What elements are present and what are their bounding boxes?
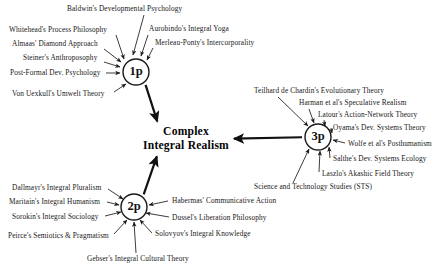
spoke-line-3p-3 — [331, 128, 332, 133]
item-label-1p-0: Baldwin's Developmental Psychology — [67, 4, 182, 13]
item-label-2p-4: Dussel's Liberation Philosophy — [172, 213, 267, 222]
item-labels-layer: Baldwin's Developmental PsychologyWhiteh… — [8, 4, 432, 263]
item-label-3p-2: Latour's Action-Network Theory — [318, 110, 417, 119]
item-label-2p-7: Gebser's Integral Cultural Theory — [87, 254, 189, 263]
item-label-3p-0: Teilhard de Chardin's Evolutionary Theor… — [254, 86, 384, 95]
spoke-line-3p-7 — [293, 149, 309, 183]
spoke-line-1p-5 — [104, 62, 120, 67]
spoke-line-2p-7 — [134, 222, 136, 253]
spoke-line-1p-0 — [133, 15, 144, 55]
spoke-line-1p-7 — [114, 84, 126, 92]
spoke-line-1p-3 — [104, 49, 121, 62]
arrow-1p-to-center — [146, 85, 158, 122]
spoke-line-2p-3 — [105, 212, 121, 216]
center-title-line1: Complex — [163, 125, 209, 138]
item-label-3p-4: Wolfe et al's Posthumanism — [348, 139, 432, 148]
item-label-2p-5: Peirce's Semiotics & Pragmatism — [8, 231, 109, 240]
item-label-1p-1: Whitehead's Process Philosophy — [9, 25, 107, 34]
arrow-2p-to-center — [144, 156, 157, 194]
node-label-2p: 2p — [127, 199, 140, 213]
item-label-2p-6: Solovyov's Integral Knowledge — [155, 229, 251, 238]
spoke-line-3p-5 — [329, 147, 330, 158]
center-title-line2: Integral Realism — [143, 139, 229, 152]
spoke-line-3p-1 — [309, 109, 314, 123]
spoke-line-1p-1 — [116, 35, 124, 59]
item-label-1p-2: Aurobindo's Integral Yoga — [149, 24, 230, 33]
diagram-canvas-container: 1p2p3p Baldwin's Developmental Psycholog… — [0, 0, 434, 271]
item-label-1p-7: Von Uexkull's Umwelt Theory — [12, 89, 105, 98]
arrow-3p-to-center — [234, 137, 302, 138]
item-label-3p-7: Science and Technology Studies (STS) — [254, 182, 372, 191]
complex-integral-realism-diagram: 1p2p3p Baldwin's Developmental Psycholog… — [0, 0, 434, 271]
spoke-line-2p-6 — [140, 220, 152, 233]
spoke-line-2p-5 — [114, 220, 127, 234]
item-label-2p-3: Sorokin's Integral Sociology — [12, 212, 99, 221]
item-label-1p-4: Merleau-Ponty's Intercorporality — [155, 38, 255, 47]
spoke-line-2p-0 — [108, 189, 123, 199]
spoke-line-1p-2 — [141, 35, 148, 56]
spoke-line-3p-6 — [319, 151, 320, 172]
item-label-1p-3: Almaas' Diamond Approach — [12, 39, 98, 48]
item-label-2p-0: Dallmayr's Integral Pluralism — [12, 183, 102, 192]
item-label-3p-5: Salthe's Dev. Systems Ecology — [333, 154, 427, 163]
item-label-1p-5: Steiner's Anthroposophy — [23, 53, 98, 62]
spoke-line-2p-4 — [146, 213, 169, 217]
node-label-3p: 3p — [311, 129, 324, 143]
spoke-line-3p-4 — [333, 140, 345, 143]
item-label-3p-3: Oyama's Dev. Systems Theory — [333, 123, 426, 132]
item-label-1p-6: Post-Formal Dev. Psychology — [10, 68, 101, 77]
item-label-3p-1: Harman et al's Speculative Realism — [299, 98, 407, 107]
spoke-line-1p-4 — [147, 48, 153, 60]
node-label-1p: 1p — [129, 64, 142, 78]
spoke-line-2p-2 — [149, 201, 168, 205]
item-label-3p-6: Laszlo's Akashic Field Theory — [322, 169, 414, 178]
spoke-line-2p-1 — [107, 202, 119, 205]
item-label-2p-1: Maritain's Integral Humanism — [9, 197, 100, 206]
item-label-2p-2: Habermas' Communicative Action — [172, 196, 276, 205]
